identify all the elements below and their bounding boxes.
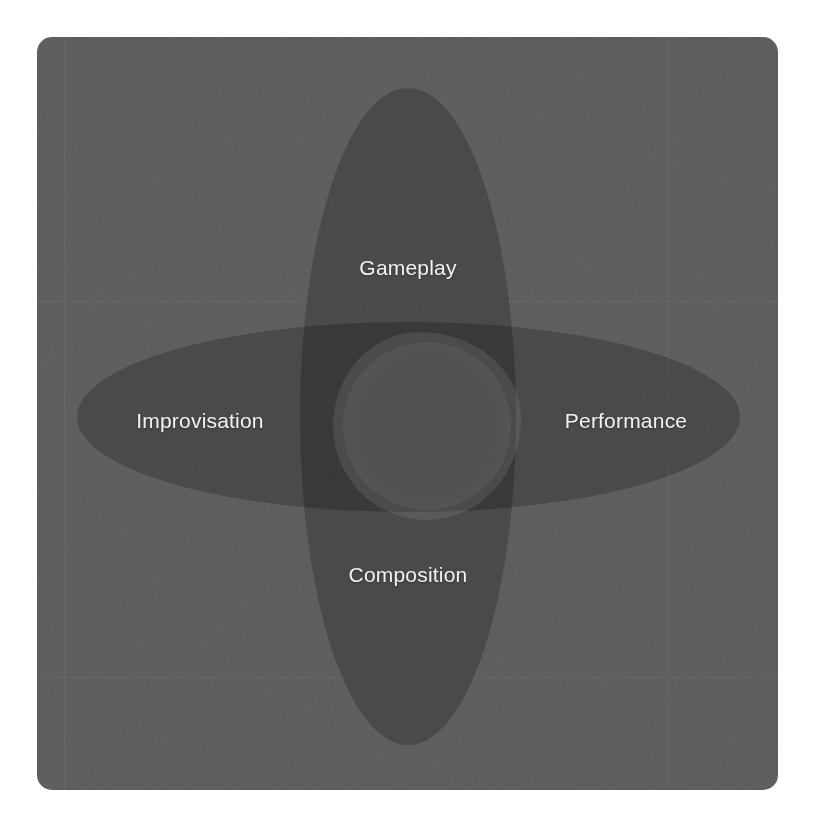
screenshot-canvas: Gameplay Improvisation Performance Compo…: [0, 0, 815, 824]
venn-label-improvisation: Improvisation: [136, 409, 263, 433]
venn-label-gameplay: Gameplay: [359, 256, 456, 280]
venn-label-performance: Performance: [565, 409, 687, 433]
venn-label-composition: Composition: [349, 563, 468, 587]
diagram-card: Gameplay Improvisation Performance Compo…: [37, 37, 778, 790]
venn-diagram: Gameplay Improvisation Performance Compo…: [37, 37, 778, 790]
